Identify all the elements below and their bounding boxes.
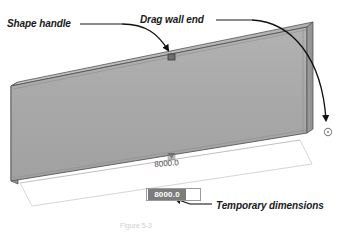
callout-label-shape-handle: Shape handle (7, 18, 71, 29)
drag-end-handle-dot (327, 131, 329, 133)
callout-label-temporary-dimensions: Temporary dimensions (216, 200, 324, 211)
temporary-dimension-selected-value[interactable]: 8000.0 (148, 189, 186, 200)
shape-handle-square[interactable] (168, 54, 175, 60)
wall-front-face (11, 27, 307, 181)
wall-right-end-face (307, 22, 313, 133)
callout-label-drag-wall-end: Drag wall end (140, 14, 204, 25)
temporary-dimension-top-value[interactable]: 8000.0 (154, 158, 179, 169)
figure-canvas: Shape handle Drag wall end Temporary dim… (0, 0, 348, 233)
dimension-witness-left (20, 183, 32, 206)
dimension-witness-right (300, 140, 312, 164)
figure-caption: Figure 5-3 (120, 222, 152, 229)
leader-arrow-shape-handle (122, 24, 168, 50)
